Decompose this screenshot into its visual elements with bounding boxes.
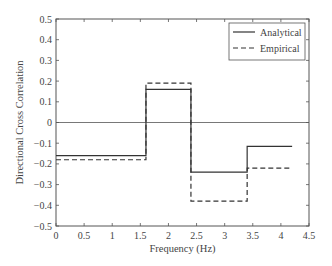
svg-text:4: 4 bbox=[278, 230, 283, 241]
legend-label-empirical: Empirical bbox=[260, 43, 300, 54]
y-axis-label: Directional Cross Correlation bbox=[14, 60, 25, 185]
empirical-line bbox=[56, 83, 292, 201]
svg-text:0: 0 bbox=[54, 230, 59, 241]
svg-text:1: 1 bbox=[110, 230, 115, 241]
svg-text:3.5: 3.5 bbox=[247, 230, 260, 241]
legend-label-analytical: Analytical bbox=[260, 27, 302, 38]
svg-text:−0.5: −0.5 bbox=[34, 221, 52, 232]
chart: 00.511.522.533.544.5 0.50.40.30.20.10−0.… bbox=[0, 0, 332, 266]
svg-text:−0.2: −0.2 bbox=[34, 158, 52, 169]
svg-text:−0.3: −0.3 bbox=[34, 179, 52, 190]
svg-text:0.5: 0.5 bbox=[78, 230, 91, 241]
svg-text:0.1: 0.1 bbox=[40, 96, 53, 107]
svg-text:0: 0 bbox=[47, 117, 52, 128]
svg-text:0.2: 0.2 bbox=[40, 76, 53, 87]
svg-text:4.5: 4.5 bbox=[303, 230, 316, 241]
y-tick-labels: 0.50.40.30.20.10−0.1−0.2−0.3−0.4−0.5 bbox=[34, 14, 52, 232]
svg-text:−0.4: −0.4 bbox=[34, 200, 52, 211]
x-axis-label: Frequency (Hz) bbox=[149, 243, 216, 255]
svg-text:0.3: 0.3 bbox=[40, 55, 53, 66]
svg-text:3: 3 bbox=[222, 230, 227, 241]
svg-text:−0.1: −0.1 bbox=[34, 138, 52, 149]
svg-text:0.4: 0.4 bbox=[40, 34, 53, 45]
legend: Analytical Empirical bbox=[229, 23, 305, 60]
svg-text:2: 2 bbox=[166, 230, 171, 241]
svg-text:1.5: 1.5 bbox=[134, 230, 147, 241]
svg-text:2.5: 2.5 bbox=[190, 230, 203, 241]
svg-text:0.5: 0.5 bbox=[40, 14, 53, 25]
x-tick-labels: 00.511.522.533.544.5 bbox=[54, 230, 316, 241]
